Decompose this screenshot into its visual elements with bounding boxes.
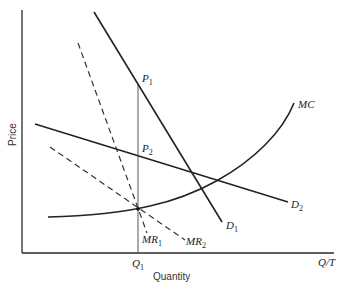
mc-label: MC <box>298 99 315 110</box>
p2-main: P <box>142 142 149 154</box>
mr2-marginal-revenue-curve <box>50 147 185 240</box>
p1-label: P1 <box>142 73 153 87</box>
p2-sub: 2 <box>149 148 153 157</box>
price-discrimination-diagram <box>0 0 345 290</box>
mr2-label: MR2 <box>186 236 206 250</box>
d1-demand-curve <box>94 12 222 222</box>
intersection-point <box>136 207 140 211</box>
mc-main: MC <box>298 98 315 110</box>
d2-main: D <box>291 198 299 210</box>
mr2-sub: 2 <box>202 241 206 250</box>
q1-main: Q <box>132 257 140 269</box>
x-axis-end-label: Q/T <box>318 257 335 268</box>
mr2-main: MR <box>186 235 202 247</box>
p1-main: P <box>142 72 149 84</box>
d1-main: D <box>226 219 234 231</box>
p1-sub: 1 <box>149 78 153 87</box>
d1-sub: 1 <box>234 225 238 234</box>
d1-label: D1 <box>226 220 238 234</box>
mc-marginal-cost-curve <box>48 103 294 217</box>
d2-label: D2 <box>291 199 303 213</box>
d2-demand-curve <box>35 124 288 202</box>
mr1-main: MR <box>142 233 158 245</box>
mr1-sub: 1 <box>158 239 162 248</box>
y-axis-label: Price <box>8 123 18 146</box>
q1-sub: 1 <box>140 263 144 272</box>
x-axis-label: Quantity <box>153 272 190 282</box>
d2-sub: 2 <box>299 204 303 213</box>
mr1-marginal-revenue-curve <box>78 43 147 233</box>
mr1-label: MR1 <box>142 234 162 248</box>
p2-label: P2 <box>142 143 153 157</box>
q1-tick-label: Q1 <box>132 258 144 272</box>
